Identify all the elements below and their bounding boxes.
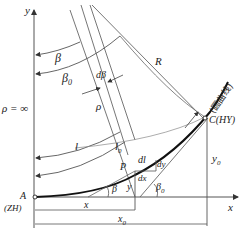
point-C [203, 116, 207, 120]
arc-l0 [36, 142, 125, 176]
transition-curve-diagram: y x A (ZH) ρ = ∞ β β0 dβ ρ R l l0 P dl d… [0, 0, 246, 240]
label-point-C: C(HY) [209, 114, 236, 126]
transition-curve [35, 82, 228, 197]
label-x: x [83, 199, 89, 210]
label-ZH: (ZH) [4, 203, 22, 213]
label-R: R [154, 55, 162, 67]
label-l: l [75, 140, 78, 152]
label-beta-small: β [111, 183, 117, 194]
arc-mid [75, 117, 205, 148]
y-axis-label: y [24, 4, 30, 16]
label-y0: y0 [211, 152, 221, 167]
x-axis-label: x [227, 201, 233, 213]
label-circular-curve: (圆曲线) [207, 81, 236, 115]
label-beta: β [54, 51, 61, 65]
point-A [33, 195, 37, 199]
label-P: P [119, 161, 126, 172]
label-beta0: β0 [61, 71, 72, 87]
label-dbeta: dβ [96, 69, 106, 80]
label-dx: dx [138, 173, 147, 183]
label-x0: x0 [117, 213, 126, 227]
label-rho-inf: ρ = ∞ [1, 102, 28, 114]
label-dy: dy [157, 159, 166, 169]
arc-beta0 [36, 36, 120, 74]
radial-line-2 [81, 5, 128, 155]
label-A: A [19, 190, 27, 201]
dbeta-arrow-left [82, 88, 100, 94]
label-dl: dl [138, 154, 146, 165]
R-arrow [185, 112, 198, 128]
label-y: y [126, 181, 132, 192]
label-rho: ρ [95, 100, 101, 112]
label-beta0-small: β0 [155, 181, 165, 195]
